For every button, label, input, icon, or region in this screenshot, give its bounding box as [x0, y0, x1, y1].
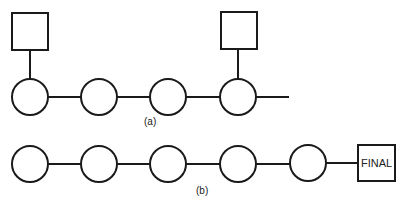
square-node-2: [221, 12, 257, 49]
circle-node-b4: [220, 146, 256, 182]
circle-node-a3: [150, 79, 186, 115]
diagram-part-b: FINAL (b): [12, 145, 395, 196]
circle-node-a1: [12, 79, 48, 115]
diagram-canvas: (a) FINAL (b): [0, 0, 407, 205]
square-node-1: [12, 13, 48, 50]
circle-node-b5: [290, 145, 326, 181]
diagram-part-a: (a): [12, 12, 289, 127]
final-box-label: FINAL: [361, 157, 392, 169]
circle-node-b2: [81, 146, 117, 182]
label-part-b: (b): [196, 185, 208, 196]
label-part-a: (a): [144, 116, 156, 127]
circle-node-a2: [81, 79, 117, 115]
circle-node-b1: [12, 146, 48, 182]
circle-node-a4: [220, 79, 256, 115]
circle-node-b3: [150, 146, 186, 182]
